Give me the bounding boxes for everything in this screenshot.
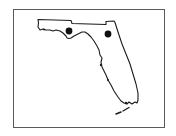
coast-detail — [125, 102, 127, 104]
location-marker-1[interactable] — [66, 28, 73, 35]
florida-outline — [38, 20, 138, 105]
coast-detail — [107, 79, 109, 81]
coast-detail — [43, 29, 45, 31]
florida-keys — [116, 108, 129, 115]
florida-map — [0, 0, 176, 136]
coast-detail — [100, 64, 102, 66]
location-marker-2[interactable] — [105, 31, 112, 38]
